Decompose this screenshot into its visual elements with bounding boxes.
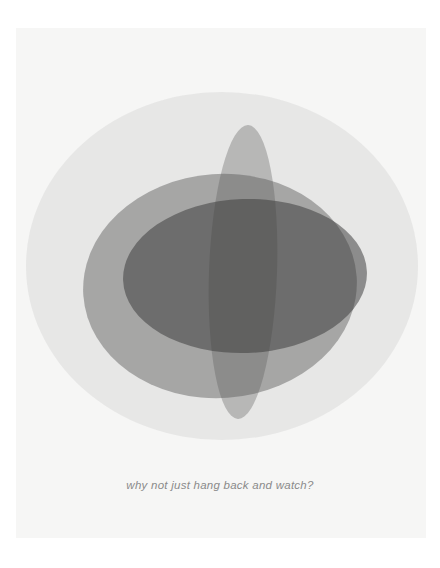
caption-text: why not just hang back and watch?: [0, 479, 440, 491]
artwork-canvas: why not just hang back and watch?: [0, 0, 440, 568]
